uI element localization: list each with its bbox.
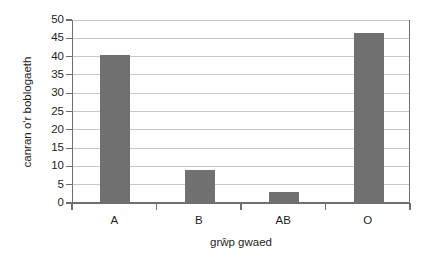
y-tick-label-15: 15	[24, 142, 64, 154]
x-tick-mark-0	[71, 203, 72, 210]
x-tick-mark-4	[409, 203, 410, 210]
bar-B	[185, 170, 215, 203]
plot-area	[72, 20, 410, 203]
x-axis-title: grŵp gwaed	[72, 235, 410, 249]
x-tick-mark-2	[240, 203, 241, 210]
y-tick-label-20: 20	[24, 124, 64, 136]
bar-A	[100, 55, 130, 203]
y-tick-label-30: 30	[24, 87, 64, 99]
x-tick-label-O: O	[328, 213, 408, 227]
y-tick-label-10: 10	[24, 160, 64, 172]
y-tick-label-25: 25	[24, 106, 64, 118]
x-tick-mark-3	[325, 203, 326, 210]
y-tick-label-45: 45	[24, 32, 64, 44]
y-tick-label-5: 5	[24, 179, 64, 191]
x-tick-label-AB: AB	[243, 213, 323, 227]
y-tick-label-50: 50	[24, 14, 64, 26]
bar-AB	[269, 192, 299, 203]
gridline-50	[73, 20, 409, 21]
bar-O	[354, 33, 384, 203]
y-tick-label-40: 40	[24, 51, 64, 63]
y-tick-label-35: 35	[24, 69, 64, 81]
x-tick-mark-1	[156, 203, 157, 210]
y-tick-label-0: 0	[24, 197, 64, 209]
x-tick-label-B: B	[159, 213, 239, 227]
x-tick-label-A: A	[74, 213, 154, 227]
bar-chart-figure: canran o'r boblogaeth 051015202530354045…	[0, 0, 425, 260]
